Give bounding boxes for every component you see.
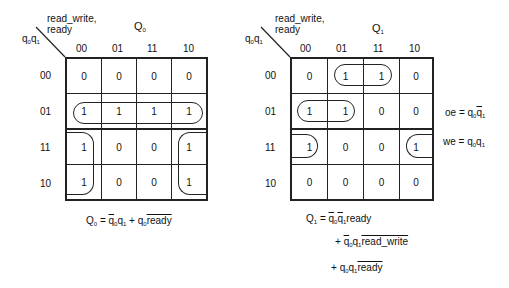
map-title: Q1: [372, 22, 384, 35]
corner-diagonal: [259, 25, 291, 58]
row-header: 00: [265, 70, 276, 81]
equation-q1-line3: + q0q1ready: [331, 262, 382, 274]
cell: 0: [363, 164, 400, 200]
cell: 0: [399, 164, 433, 200]
cell: 0: [101, 58, 137, 94]
write-enable-equation: we = q0q1: [443, 136, 485, 148]
col-header: 00: [300, 43, 311, 54]
cell: 0: [399, 93, 433, 129]
group-loop-row00: [334, 64, 392, 86]
col-header: 11: [373, 43, 383, 54]
group-loop-right-wrap: [178, 132, 208, 195]
cell: 0: [327, 129, 364, 165]
cell: 0: [399, 58, 433, 94]
row-header: 10: [40, 178, 51, 189]
cell: 0: [136, 129, 172, 165]
cell: 0: [363, 129, 400, 165]
equation-q1-line2: + q0q1read_write: [335, 236, 408, 248]
row-header: 01: [265, 106, 276, 117]
col-header: 01: [336, 43, 347, 54]
group-loop-row01: [297, 100, 355, 122]
cell: 0: [66, 58, 102, 94]
row-header: 00: [40, 70, 51, 81]
row-header: 11: [265, 142, 275, 153]
cell: 0: [171, 58, 207, 94]
col-header: 01: [112, 43, 123, 54]
cell: 0: [291, 58, 328, 94]
output-enable-equation: oe = q0q1: [445, 107, 485, 119]
col-header: 10: [409, 43, 420, 54]
map-title: Q0: [134, 20, 146, 33]
group-loop-left-wrap: [65, 132, 94, 195]
cell: 0: [291, 164, 328, 200]
equation-q1-line1: Q1 = q0q1ready: [306, 213, 371, 225]
cell: 0: [101, 129, 137, 165]
cell: 0: [136, 164, 172, 200]
row-header: 11: [40, 142, 50, 153]
row-header: 01: [40, 106, 51, 117]
equation-q0: Q0 = q0q1 + q0ready: [86, 215, 172, 227]
group-loop-row01: [73, 102, 203, 124]
col-header: 10: [183, 43, 194, 54]
group-loop-right-wrap: [406, 134, 434, 158]
cell: 0: [136, 58, 172, 94]
cell: 0: [363, 93, 400, 129]
group-loop-left-wrap: [290, 134, 318, 158]
col-header: 11: [147, 43, 157, 54]
cell: 0: [327, 164, 364, 200]
cell: 0: [101, 164, 137, 200]
col-header: 00: [76, 43, 87, 54]
row-header: 10: [265, 178, 276, 189]
corner-diagonal: [34, 25, 66, 58]
